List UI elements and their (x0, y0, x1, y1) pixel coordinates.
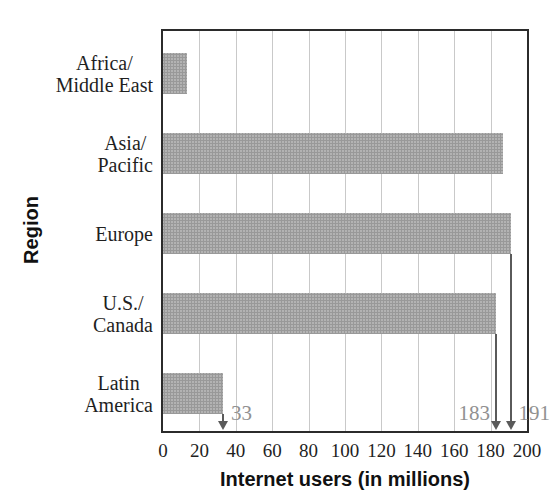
bar (163, 213, 511, 254)
category-label-line: U.S./ (93, 292, 153, 314)
annotation-line (510, 254, 512, 422)
category-label: Asia/Pacific (97, 132, 153, 176)
tick-label: 0 (158, 440, 168, 462)
tick-label: 40 (226, 440, 245, 462)
bar (163, 373, 223, 414)
category-label-line: Africa/ (56, 52, 153, 74)
x-axis-title: Internet users (in millions) (161, 468, 529, 491)
clipped-chart-title: Worldwide Internet Users (148, 0, 540, 6)
tick-label: 60 (263, 440, 282, 462)
chart-figure: Worldwide Internet Users Region Africa/M… (0, 0, 558, 498)
tick-label: 100 (331, 440, 360, 462)
bar (163, 53, 187, 94)
category-label-line: Asia/ (97, 132, 153, 154)
category-label: Africa/Middle East (56, 52, 153, 96)
chart-title-text: Worldwide Internet Users (148, 0, 540, 5)
tick-label: 20 (190, 440, 209, 462)
annotation-line (495, 334, 497, 422)
down-arrow-icon (218, 421, 228, 430)
category-label-line: Middle East (56, 74, 153, 96)
category-label: LatinAmerica (84, 372, 153, 416)
tick-label: 160 (440, 440, 469, 462)
annotation-value: 183 (434, 401, 490, 425)
y-axis-title: Region (20, 150, 44, 310)
category-label: Europe (95, 223, 153, 245)
bar (163, 133, 503, 174)
category-label-line: Canada (93, 314, 153, 336)
category-label-line: Latin (84, 372, 153, 394)
tick-label: 180 (476, 440, 505, 462)
category-label: U.S./Canada (93, 292, 153, 336)
category-label-line: Europe (95, 223, 153, 245)
category-label-line: America (84, 394, 153, 416)
plot-area: 19118333 (161, 29, 529, 433)
annotation-value: 191 (519, 401, 551, 425)
category-label-line: Pacific (97, 154, 153, 176)
down-arrow-icon (491, 421, 501, 430)
tick-label: 120 (367, 440, 396, 462)
down-arrow-icon (506, 421, 516, 430)
tick-label: 140 (404, 440, 433, 462)
tick-label: 200 (513, 440, 542, 462)
bar (163, 293, 496, 334)
tick-label: 80 (299, 440, 318, 462)
annotation-value: 33 (231, 401, 252, 425)
